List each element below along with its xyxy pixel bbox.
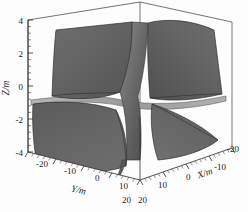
surface-lobe-back-left — [52, 22, 132, 99]
y-tick-label-10: 10 — [119, 181, 129, 191]
x-tick-label-neg10: -10 — [214, 162, 226, 172]
z-axis: 4 2 0 -2 -4 Z/m — [1, 16, 33, 158]
x-tick-label-0: 0 — [186, 172, 191, 182]
x-tick-label-20: 20 — [138, 195, 148, 205]
y-axis-title: Y/m — [70, 184, 87, 197]
z-tick-label-neg4: -4 — [16, 148, 24, 158]
z-tick-label-neg2: -2 — [16, 115, 24, 125]
surface-lobe-front-right — [151, 104, 218, 160]
x-tick-label-10: 10 — [158, 180, 168, 190]
box-top-back-edges — [28, 2, 232, 22]
surface-lobe-back-right — [148, 20, 222, 100]
plot-canvas: 4 2 0 -2 -4 Z/m — [0, 0, 248, 212]
z-tick-label-2: 2 — [19, 49, 24, 59]
x-tick-label-neg20: -20 — [227, 144, 239, 154]
y-tick-label-neg10: -10 — [64, 166, 76, 176]
y-tick-label-20: 20 — [122, 195, 132, 205]
y-tick-label-0: 0 — [95, 173, 100, 183]
z-axis-title: Z/m — [1, 80, 11, 95]
z-tick-label-4: 4 — [19, 16, 24, 26]
x-axis-title: X/m — [195, 166, 214, 181]
y-tick-label-neg20: -20 — [36, 159, 48, 169]
surface-group — [31, 20, 226, 184]
z-tick-label-0: 0 — [19, 82, 24, 92]
surface-plot-figure: 4 2 0 -2 -4 Z/m — [0, 0, 248, 212]
